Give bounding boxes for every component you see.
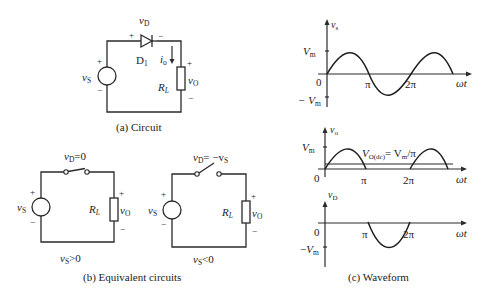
switch-label: vD=0 <box>64 150 87 164</box>
current-label: io <box>160 53 167 67</box>
vm-label: Vm <box>302 141 315 155</box>
load-label: RL <box>157 81 169 95</box>
resistor-icon <box>177 67 185 90</box>
caption-c: (c) Waveform <box>348 271 409 284</box>
wire <box>221 174 246 201</box>
diode-icon <box>139 35 157 47</box>
y-axis-arrow-icon <box>325 19 330 25</box>
dc-value-label: VO(dc)= Vm/π <box>362 147 416 161</box>
y-axis-arrow-icon <box>323 127 328 133</box>
condition-label: vS>0 <box>60 252 81 266</box>
load-label: RL <box>88 203 100 217</box>
wire-top-left <box>107 41 139 67</box>
circuit-a: vD + − D1 io + − vS RL + − vO (a) Circui… <box>82 14 199 134</box>
half-wave-rectifier-figure: vD + − D1 io + − vS RL + − vO (a) Circui… <box>0 0 484 294</box>
equivalent-circuit-open: vD= −vS + − vS RL + − vO vS<0 <box>148 151 263 267</box>
half-wave-hump <box>325 149 366 169</box>
source-minus: − <box>30 217 35 227</box>
load-label: RL <box>221 206 233 220</box>
plot-vd: vD 0 π 2π ωt −Vm <box>300 189 468 267</box>
tick-2pi: 2π <box>403 228 415 240</box>
wire <box>172 174 195 201</box>
tick-pi: π <box>365 78 371 90</box>
caption-a: (a) Circuit <box>116 121 162 134</box>
source-plus: + <box>97 56 102 66</box>
origin-label: 0 <box>316 76 322 88</box>
diode-name-label: D1 <box>136 54 148 68</box>
vm-label: Vm <box>303 45 316 59</box>
output-minus: − <box>120 224 125 234</box>
resistor-icon <box>110 198 118 221</box>
x-label: ωt <box>456 77 468 89</box>
condition-label: vS<0 <box>193 253 214 267</box>
neg-vm-label: −Vm <box>300 243 319 257</box>
output-minus: − <box>188 93 193 103</box>
wire <box>41 216 114 242</box>
neg-vm-label: − Vm <box>298 94 321 108</box>
tick-pi: π <box>362 228 368 240</box>
output-plus: + <box>251 191 256 201</box>
source-label: vS <box>82 71 91 85</box>
tick-2pi: 2π <box>405 78 417 90</box>
output-minus: − <box>252 226 257 236</box>
x-label: ωt <box>456 173 468 185</box>
output-plus: + <box>187 58 192 68</box>
source-label: vS <box>148 204 157 218</box>
y-label: vs <box>331 19 338 32</box>
output-label: vO <box>252 207 263 221</box>
y-label: vo <box>330 124 338 137</box>
x-axis-arrow-icon <box>461 221 467 226</box>
voltage-source-icon <box>163 201 181 219</box>
resistor-icon <box>242 201 250 223</box>
y-axis-arrow-icon <box>323 201 328 207</box>
x-label: ωt <box>456 227 468 239</box>
tick-2pi: 2π <box>403 174 415 186</box>
tick-pi: π <box>361 174 367 186</box>
output-label: vO <box>188 74 199 88</box>
equivalent-circuit-closed: vD=0 + − vS RL + − vO vS>0 <box>17 150 131 266</box>
source-minus: − <box>161 219 166 229</box>
wire <box>89 172 114 198</box>
caption-b: (b) Equivalent circuits <box>83 271 181 284</box>
current-arrow-icon <box>170 46 175 64</box>
wire <box>41 172 64 198</box>
diode-plus: + <box>129 30 134 40</box>
wire <box>172 219 246 247</box>
output-label: vO <box>120 204 131 218</box>
plot-vo: vo Vm VO(dc)= Vm/π 0 π 2π ωt <box>302 124 468 186</box>
wire-bottom <box>107 85 181 112</box>
voltage-source-icon <box>98 67 116 85</box>
x-axis-arrow-icon <box>466 72 472 77</box>
y-label: vD <box>328 189 338 202</box>
switch-closed-icon <box>64 169 89 175</box>
source-minus: − <box>97 85 102 95</box>
plot-vs: vs Vm − Vm 0 π 2π ωt <box>298 19 472 108</box>
source-plus: + <box>161 189 166 199</box>
origin-label: 0 <box>314 172 320 184</box>
voltage-source-icon <box>32 198 50 216</box>
output-plus: + <box>119 188 124 198</box>
source-label: vS <box>17 201 26 215</box>
switch-label: vD= −vS <box>193 151 228 165</box>
source-plus: + <box>30 187 35 197</box>
diode-minus: − <box>158 31 163 41</box>
origin-label: 0 <box>314 226 320 238</box>
x-axis-arrow-icon <box>461 167 467 172</box>
diode-voltage-label: vD <box>139 14 150 28</box>
